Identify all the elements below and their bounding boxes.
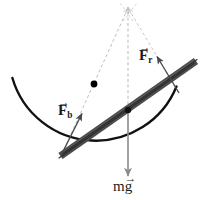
rod-outline-upper <box>62 59 197 154</box>
buoyant-force-label: → F b <box>58 103 73 120</box>
weight-mass-symbol: m <box>113 178 125 194</box>
construction-tip-right <box>123 3 137 21</box>
construction-lines-group <box>62 3 179 154</box>
weight-label: m → g <box>113 179 132 194</box>
buoyant-force-subscript: b <box>67 110 72 120</box>
weight-gravity-symbol: → g <box>125 179 133 194</box>
vector-accent-icon: → <box>58 97 67 109</box>
center-of-mass-dot <box>125 107 131 113</box>
vector-accent-icon: → <box>139 42 148 54</box>
buoyant-force-symbol: → F <box>58 103 67 118</box>
reaction-force-symbol: → F <box>139 48 148 63</box>
diagram-canvas <box>0 0 203 200</box>
vector-accent-icon: → <box>125 173 133 185</box>
buoyancy-center-dot <box>91 81 98 88</box>
construction-tip-left <box>120 3 133 21</box>
physics-diagram-figure: → F b → F r m → g <box>0 0 203 200</box>
reaction-force-label: → F r <box>139 48 152 65</box>
reaction-force-subscript: r <box>148 55 152 65</box>
